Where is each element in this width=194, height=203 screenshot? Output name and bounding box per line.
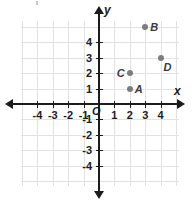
x-axis-label: x: [174, 85, 181, 97]
y-axis-tick: [96, 42, 103, 43]
scan-speck-artifact: [36, 1, 38, 5]
x-tick-label: -4: [29, 110, 45, 121]
x-axis-tick: [161, 101, 162, 108]
data-point-c: [127, 70, 133, 76]
x-tick-label: 4: [153, 110, 169, 121]
x-axis-tick: [53, 101, 54, 108]
x-tick-label: -3: [45, 110, 61, 121]
y-tick-label: -4: [76, 161, 92, 172]
y-axis-tick: [96, 119, 103, 120]
y-tick-label: -2: [76, 130, 92, 141]
data-point-label-b: B: [150, 22, 158, 33]
y-axis-tick: [96, 89, 103, 90]
y-axis-up-arrow: [94, 6, 104, 14]
x-axis-tick: [37, 101, 38, 108]
x-axis-tick: [84, 101, 85, 108]
x-tick-label: 2: [122, 110, 138, 121]
origin-label: O: [92, 106, 101, 117]
data-point-d: [158, 55, 164, 61]
y-axis-tick: [96, 150, 103, 151]
y-tick-label: 2: [76, 68, 92, 79]
x-tick-label: -2: [60, 110, 76, 121]
data-point-label-a: A: [135, 84, 143, 95]
data-point-label-d: D: [164, 62, 172, 73]
y-axis-label: y: [104, 4, 111, 16]
x-axis-tick: [114, 101, 115, 108]
x-axis-right-arrow: [177, 99, 185, 109]
y-tick-label: -1: [76, 114, 92, 125]
y-tick-label: 1: [76, 84, 92, 95]
x-tick-label: 1: [106, 110, 122, 121]
y-axis-tick: [96, 73, 103, 74]
y-tick-label: -3: [76, 145, 92, 156]
x-axis-left-arrow: [5, 99, 13, 109]
x-tick-label: 3: [137, 110, 153, 121]
data-point-b: [142, 24, 148, 30]
y-axis-tick: [96, 135, 103, 136]
x-axis-tick: [130, 101, 131, 108]
x-axis-tick: [145, 101, 146, 108]
data-point-label-c: C: [117, 68, 125, 79]
y-tick-label: 4: [76, 37, 92, 48]
coordinate-plane-figure: -4-3-2-112344321-1-2-3-4 O x y ABCD: [0, 0, 194, 203]
y-axis-down-arrow: [94, 191, 104, 199]
y-axis-tick: [96, 166, 103, 167]
y-tick-label: 3: [76, 53, 92, 64]
y-axis-tick: [96, 58, 103, 59]
data-point-a: [127, 86, 133, 92]
grid-line-horizontal: [21, 181, 179, 182]
x-axis-tick: [68, 101, 69, 108]
